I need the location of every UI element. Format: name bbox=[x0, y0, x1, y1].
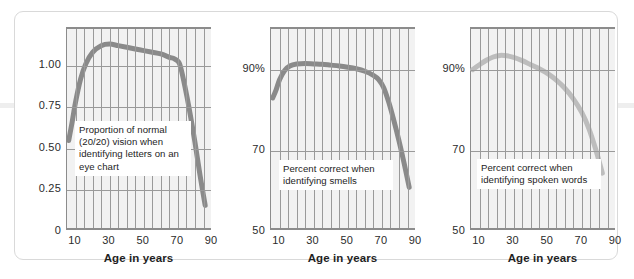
figure-frame: 00.250.500.751.00 1030507090 Age in year… bbox=[14, 11, 618, 260]
y-tick-label: 70 bbox=[452, 144, 465, 155]
y-tick-label: 1.00 bbox=[39, 59, 61, 70]
caption-hearing: Percent correct when identifying spoken … bbox=[477, 159, 601, 189]
vertical-gridline bbox=[573, 29, 574, 228]
vertical-gridline bbox=[314, 29, 315, 228]
horizontal-gridline bbox=[67, 107, 211, 108]
x-tick-label: 10 bbox=[464, 234, 494, 246]
vertical-gridline bbox=[339, 29, 340, 228]
vertical-gridline bbox=[548, 29, 549, 228]
x-tick-label: 70 bbox=[566, 234, 596, 246]
vertical-gridline bbox=[322, 29, 323, 228]
x-tick-label: 30 bbox=[298, 234, 328, 246]
horizontal-gridline bbox=[271, 70, 415, 71]
caption-vision: Proportion of normal (20/20) vision when… bbox=[75, 121, 191, 176]
vertical-gridline bbox=[582, 29, 583, 228]
vertical-gridline bbox=[590, 29, 591, 228]
chart-panel-vision: 00.250.500.751.00 1030507090 Age in year… bbox=[15, 12, 220, 261]
vertical-gridline bbox=[399, 29, 400, 228]
vertical-gridline bbox=[565, 29, 566, 228]
x-tick-label: 70 bbox=[162, 234, 192, 246]
vertical-gridline bbox=[514, 29, 515, 228]
vertical-gridline bbox=[280, 29, 281, 228]
x-tick-label: 70 bbox=[366, 234, 396, 246]
caption-smell: Percent correct when identifying smells bbox=[279, 160, 393, 190]
horizontal-gridline bbox=[67, 190, 211, 191]
x-axis-title-smell: Age in years bbox=[270, 252, 415, 264]
chart-panel-hearing: 507090% 1030507090 Age in years Percent … bbox=[419, 12, 624, 261]
x-tick-label: 10 bbox=[60, 234, 90, 246]
vertical-gridline bbox=[365, 29, 366, 228]
y-tick-label: 70 bbox=[252, 144, 265, 155]
vertical-gridline bbox=[480, 29, 481, 228]
x-tick-label: 30 bbox=[498, 234, 528, 246]
data-line bbox=[473, 55, 603, 173]
x-tick-label: 10 bbox=[264, 234, 294, 246]
vertical-gridline bbox=[288, 29, 289, 228]
x-tick-label: 50 bbox=[128, 234, 158, 246]
x-tick-label: 50 bbox=[532, 234, 562, 246]
vertical-gridline bbox=[556, 29, 557, 228]
vertical-gridline bbox=[488, 29, 489, 228]
vertical-gridline bbox=[497, 29, 498, 228]
horizontal-gridline bbox=[67, 66, 211, 67]
horizontal-gridline bbox=[471, 151, 615, 152]
line-curve-hearing bbox=[471, 29, 616, 232]
x-tick-label: 30 bbox=[94, 234, 124, 246]
plot-area-smell bbox=[270, 27, 415, 230]
line-curve-smell bbox=[271, 29, 416, 232]
y-tick-label: 0.25 bbox=[39, 183, 61, 194]
horizontal-gridline bbox=[271, 151, 415, 152]
vertical-gridline bbox=[356, 29, 357, 228]
x-axis-title-vision: Age in years bbox=[66, 252, 211, 264]
vertical-gridline bbox=[408, 29, 409, 228]
vertical-gridline bbox=[505, 29, 506, 228]
vertical-gridline bbox=[522, 29, 523, 228]
x-axis-title-hearing: Age in years bbox=[470, 252, 615, 264]
vertical-gridline bbox=[297, 29, 298, 228]
chart-panel-smell: 507090% 1030507090 Age in years Percent … bbox=[219, 12, 424, 261]
vertical-gridline bbox=[539, 29, 540, 228]
vertical-gridline bbox=[331, 29, 332, 228]
y-tick-label: 90% bbox=[442, 63, 465, 74]
vertical-gridline bbox=[608, 29, 609, 228]
y-tick-label: 0.50 bbox=[39, 142, 61, 153]
vertical-gridline bbox=[382, 29, 383, 228]
vertical-gridline bbox=[195, 29, 196, 228]
vertical-gridline bbox=[390, 29, 391, 228]
y-tick-label: 0.75 bbox=[39, 100, 61, 111]
x-tick-label: 90 bbox=[600, 234, 630, 246]
vertical-gridline bbox=[305, 29, 306, 228]
y-tick-label: 90% bbox=[242, 63, 265, 74]
vertical-gridline bbox=[531, 29, 532, 228]
vertical-gridline bbox=[204, 29, 205, 228]
vertical-gridline bbox=[348, 29, 349, 228]
vertical-gridline bbox=[599, 29, 600, 228]
plot-area-hearing bbox=[470, 27, 615, 230]
horizontal-gridline bbox=[471, 70, 615, 71]
vertical-gridline bbox=[373, 29, 374, 228]
x-tick-label: 50 bbox=[332, 234, 362, 246]
